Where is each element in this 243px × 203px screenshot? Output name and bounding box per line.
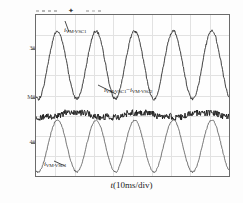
annotation-middle-subscript-2: VM-VSC2 (132, 89, 153, 94)
y-tick-label-0: 3# (22, 45, 35, 51)
annotation-upper-subscript: VM-VSC1 (66, 29, 87, 34)
annotation-lower-trace: iVM-VSC1 (44, 160, 66, 168)
annotation-middle-trace: iVM-VSC1−iVM-VSC2 (104, 86, 152, 94)
x-axis-unit: (10ms/div) (113, 180, 153, 190)
plot-area (35, 14, 230, 177)
x-axis-label: t(10ms/div) (35, 180, 228, 190)
annotation-lower-subscript: VM-VSC1 (46, 163, 67, 168)
y-tick-label-2: 4# (22, 139, 35, 145)
waveform-figure: ✦ iVM-VSC(20A/div) 3# M# 4# iVM-VSC1 iVM… (0, 0, 243, 203)
y-axis-label: iVM-VSC(20A/div) (0, 0, 8, 30)
annotation-middle-subscript-1: VM-VSC1 (106, 89, 127, 94)
leader-lines (36, 15, 229, 176)
annotation-upper-trace: iVM-VSC1 (64, 26, 86, 34)
y-tick-label-1: M# (22, 94, 35, 100)
